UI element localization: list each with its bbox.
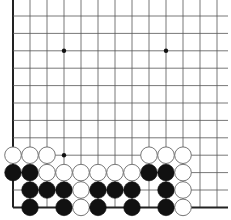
white-stone[interactable] — [158, 147, 175, 164]
white-stone[interactable] — [175, 164, 192, 181]
white-stone[interactable] — [39, 164, 56, 181]
black-stone[interactable] — [158, 164, 175, 181]
white-stone[interactable] — [90, 164, 107, 181]
black-stone[interactable] — [56, 199, 73, 216]
black-stone[interactable] — [158, 182, 175, 199]
white-stone[interactable] — [73, 199, 90, 216]
black-stone[interactable] — [107, 182, 124, 199]
star-point-icon — [62, 153, 66, 157]
white-stone[interactable] — [141, 147, 158, 164]
black-stone[interactable] — [158, 199, 175, 216]
star-point-icon — [62, 49, 66, 53]
white-stone[interactable] — [107, 164, 124, 181]
star-point-icon — [164, 49, 168, 53]
black-stone[interactable] — [5, 164, 22, 181]
black-stone[interactable] — [141, 164, 158, 181]
white-stone[interactable] — [39, 147, 56, 164]
black-stone[interactable] — [124, 182, 141, 199]
white-stone[interactable] — [56, 164, 73, 181]
black-stone[interactable] — [39, 182, 56, 199]
black-stone[interactable] — [56, 182, 73, 199]
black-stone[interactable] — [22, 164, 39, 181]
white-stone[interactable] — [175, 147, 192, 164]
black-stone[interactable] — [22, 199, 39, 216]
white-stone[interactable] — [175, 199, 192, 216]
black-stone[interactable] — [90, 199, 107, 216]
white-stone[interactable] — [73, 182, 90, 199]
black-stone[interactable] — [90, 182, 107, 199]
white-stone[interactable] — [5, 147, 22, 164]
black-stone[interactable] — [22, 182, 39, 199]
go-board[interactable] — [0, 0, 231, 220]
white-stone[interactable] — [73, 164, 90, 181]
white-stone[interactable] — [22, 147, 39, 164]
white-stone[interactable] — [175, 182, 192, 199]
white-stone[interactable] — [124, 164, 141, 181]
black-stone[interactable] — [124, 199, 141, 216]
